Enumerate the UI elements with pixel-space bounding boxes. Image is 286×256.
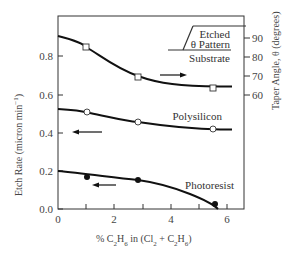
y2-tick-70: 70 (252, 70, 264, 82)
photoresist-label: Photoresist (185, 179, 234, 191)
x-tick-2: 2 (111, 213, 117, 225)
y-tick-0.4: 0.4 (39, 127, 53, 139)
x-axis-ticks (86, 204, 227, 209)
y2-tick-80: 80 (252, 51, 264, 63)
y2-tick-90: 90 (252, 32, 264, 44)
y2-axis-title: Taper Angle, θ (degrees) (270, 12, 282, 111)
polysilicon-point (135, 119, 141, 125)
chart: 0.0 0.2 0.4 0.6 0.8 0 2 4 6 90 80 70 60 … (0, 0, 286, 256)
y-axis-tick-labels: 0.0 0.2 0.4 0.6 0.8 (39, 50, 53, 215)
photoresist-point (84, 174, 90, 180)
photoresist-point (212, 201, 218, 207)
inset-pattern-label: θ Pattern (191, 38, 231, 50)
x-tick-0: 0 (55, 213, 61, 225)
polysilicon-point (84, 109, 90, 115)
substrate-point (83, 44, 89, 50)
y-axis-ticks (58, 56, 63, 209)
y2-axis-ticks (244, 38, 250, 95)
substrate-point (135, 74, 141, 80)
y2-axis-tick-labels: 90 80 70 60 (252, 32, 264, 101)
y2-tick-60: 60 (252, 89, 264, 101)
photoresist-point (135, 177, 141, 183)
polysilicon-point (210, 126, 216, 132)
arrow-right-icon (160, 73, 187, 78)
y-tick-0.6: 0.6 (39, 89, 53, 101)
arrow-left-icon (92, 183, 116, 188)
y-tick-0.2: 0.2 (39, 165, 53, 177)
y-axis-title: Etch Rate (micron min−1) (12, 94, 25, 196)
x-axis-title: % C2H6 in (Cl2 + C2H6) (96, 233, 192, 248)
inset-substrate-label: Substrate (189, 52, 230, 64)
y-tick-0.8: 0.8 (39, 50, 53, 62)
x-tick-6: 6 (224, 213, 230, 225)
arrow-left-icon (72, 130, 102, 135)
substrate-point (210, 85, 216, 91)
polysilicon-label: Polysilicon (172, 110, 222, 122)
x-axis-tick-labels: 0 2 4 6 (55, 213, 230, 225)
x-tick-4: 4 (168, 213, 174, 225)
y-tick-0: 0.0 (39, 203, 53, 215)
